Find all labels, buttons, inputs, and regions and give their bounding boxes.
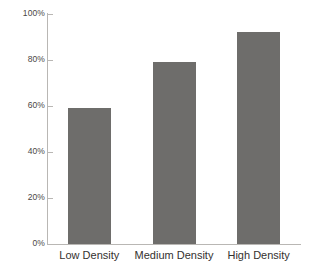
bar xyxy=(237,32,280,244)
bar-chart: 0%20%40%60%80%100% Low DensityMedium Den… xyxy=(0,0,311,273)
bars-group xyxy=(0,0,311,273)
x-axis-category-label: Low Density xyxy=(47,249,132,261)
bar xyxy=(153,62,196,244)
bar xyxy=(68,108,111,244)
x-axis-category-label: Medium Density xyxy=(132,249,217,261)
x-axis-category-label: High Density xyxy=(216,249,301,261)
